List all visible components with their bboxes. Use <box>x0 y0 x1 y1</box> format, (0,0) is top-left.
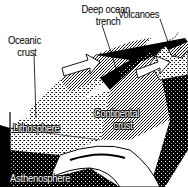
subduction-diagram: Deep ocean trench Volcanoes Oceanic crus… <box>0 0 188 187</box>
label-oceanic-crust: Oceanic crust <box>8 34 41 58</box>
label-oceanic-crust-line1: Oceanic <box>8 34 41 46</box>
label-asthenosphere: Asthenosphere <box>10 172 70 184</box>
label-volcanoes: Volcanoes <box>118 8 159 20</box>
label-continental-crust-line2: crust <box>94 119 139 131</box>
label-continental-crust-line1: Continental <box>94 107 139 119</box>
diagram-illustration <box>0 0 188 187</box>
label-continental-crust: Continental crust <box>94 107 139 131</box>
label-lithosphere: Lithosphere <box>13 122 60 134</box>
label-oceanic-crust-line2: crust <box>8 46 41 58</box>
